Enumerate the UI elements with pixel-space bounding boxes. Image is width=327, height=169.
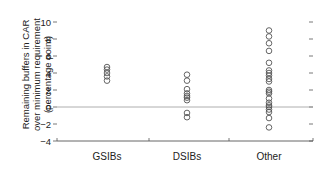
data-point [184,114,190,120]
y-tick-label: −4 [40,136,51,147]
data-point [104,78,110,84]
y-tick-label: 6 [46,51,51,62]
data-point [266,125,272,131]
data-point [184,78,190,84]
x-tick-label: GSIBs [93,151,122,162]
data-point [266,34,272,40]
y-tick-label: −2 [40,119,51,130]
y-tick-label: 0 [46,102,51,113]
x-tick-label: DSIBs [173,151,201,162]
y-tick-label: 10 [40,17,51,28]
plot-area: 1086420−2−4GSIBsDSIBsOther [0,0,327,169]
data-point [266,60,272,66]
data-point [266,28,272,34]
y-tick-label: 4 [46,68,51,79]
y-tick-label: 8 [46,34,51,45]
data-point [266,115,272,121]
data-point [184,72,190,78]
data-point [266,40,272,46]
x-tick-label: Other [256,151,282,162]
y-tick-label: 2 [46,85,51,96]
data-point [266,48,272,54]
